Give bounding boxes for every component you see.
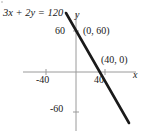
equation-label: 3x + 2y = 120 (3, 8, 63, 19)
y-axis-label: y (75, 10, 79, 20)
x-axis-tick-label-40: 40 (94, 75, 104, 85)
y-axis-tick-label-60: 60 (55, 26, 65, 36)
point-label-y-intercept: (0, 60) (83, 26, 110, 36)
y-axis-tick-label--60: -60 (50, 104, 63, 114)
linear-equation-graph-figure: 3x + 2y = 120 y x 60 -60 -40 40 (0, 60) … (0, 0, 143, 133)
x-axis-tick-label--40: -40 (36, 75, 49, 85)
x-axis-label: x (133, 70, 137, 80)
graph-canvas (0, 0, 143, 133)
point-label-x-intercept: (40, 0) (101, 55, 128, 65)
